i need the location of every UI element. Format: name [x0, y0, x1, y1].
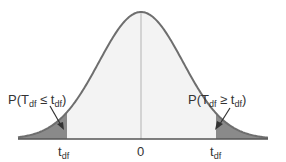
right-probability-label: P(Tdf ≥ tdf)	[188, 92, 246, 109]
left-probability-label: P(Tdf ≤ tdf)	[8, 92, 66, 109]
right-tick-label: tdf	[210, 144, 222, 161]
center-tick-label: 0	[137, 144, 144, 159]
curve-body-fill	[18, 12, 268, 139]
left-tick-label: tdf	[58, 144, 70, 161]
t-distribution-diagram: P(Tdf ≤ tdf) P(Tdf ≥ tdf) tdf 0 tdf	[0, 0, 286, 162]
